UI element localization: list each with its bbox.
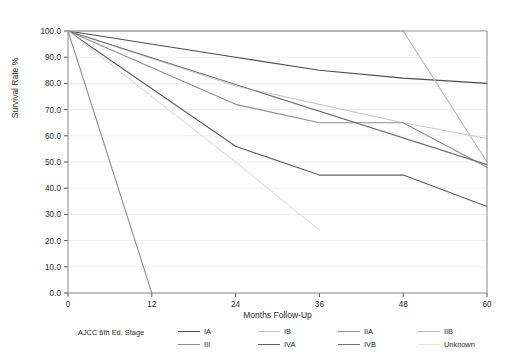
legend-title: AJCC 6th Ed. Stage [78,328,144,337]
svg-text:24: 24 [231,300,241,309]
legend-label-iii: III [204,340,210,349]
legend-item-ivb[interactable]: IVB [338,338,418,351]
legend-item-ia[interactable]: IA [178,325,258,338]
svg-text:100.0: 100.0 [41,27,62,36]
svg-text:40.0: 40.0 [45,184,61,193]
legend-swatch-iib [418,331,440,332]
legend-label-iib: IIB [444,327,453,336]
svg-text:0: 0 [66,300,71,309]
legend-label-iia: IIA [364,327,373,336]
svg-text:10.0: 10.0 [45,263,61,272]
legend-swatch-ia [178,331,200,332]
legend-item-iii[interactable]: III [178,338,258,351]
svg-text:60.0: 60.0 [45,132,61,141]
x-axis-label: Months Follow-Up [68,310,487,320]
legend-label-iva: IVA [284,340,295,349]
svg-text:12: 12 [147,300,157,309]
legend-swatch-iva [258,344,280,345]
legend-item-unknown[interactable]: Unknown [418,338,498,351]
legend-item-iib[interactable]: IIB [418,325,498,338]
legend-swatch-ivb [338,344,360,345]
legend-item-ib[interactable]: IB [258,325,338,338]
svg-text:60: 60 [482,300,492,309]
svg-text:36: 36 [315,300,325,309]
legend-item-iia[interactable]: IIA [338,325,418,338]
legend-label-ivb: IVB [364,340,376,349]
series-line-unknown [68,31,319,230]
legend-swatch-iia [338,331,360,332]
svg-text:20.0: 20.0 [45,237,61,246]
svg-text:48: 48 [399,300,409,309]
survival-chart-figure: 0.010.020.030.040.050.060.070.080.090.01… [0,0,512,359]
legend-swatch-iii [178,344,200,345]
plot-canvas: 0.010.020.030.040.050.060.070.080.090.01… [0,0,512,359]
grid-lines [68,31,487,293]
svg-text:30.0: 30.0 [45,210,61,219]
series-line-ivb [68,31,487,165]
legend-items: IAIBIIAIIBIIIIVAIVBUnknown [178,325,498,351]
legend-label-ib: IB [284,327,291,336]
svg-text:0.0: 0.0 [50,289,62,298]
svg-text:70.0: 70.0 [45,106,61,115]
legend-swatch-unknown [418,344,440,345]
svg-text:90.0: 90.0 [45,53,61,62]
y-axis-ticks: 0.010.020.030.040.050.060.070.080.090.01… [41,27,69,298]
legend-label-unknown: Unknown [444,340,475,349]
legend: AJCC 6th Ed. Stage IAIBIIAIIBIIIIVAIVBUn… [78,325,498,357]
legend-label-ia: IA [204,327,211,336]
series-line-ib [68,31,487,138]
svg-text:80.0: 80.0 [45,79,61,88]
y-axis-label: Survival Rate % [10,28,20,148]
legend-swatch-ib [258,331,280,332]
svg-text:50.0: 50.0 [45,158,61,167]
legend-item-iva[interactable]: IVA [258,338,338,351]
x-axis-ticks: 01224364860 [66,293,492,309]
